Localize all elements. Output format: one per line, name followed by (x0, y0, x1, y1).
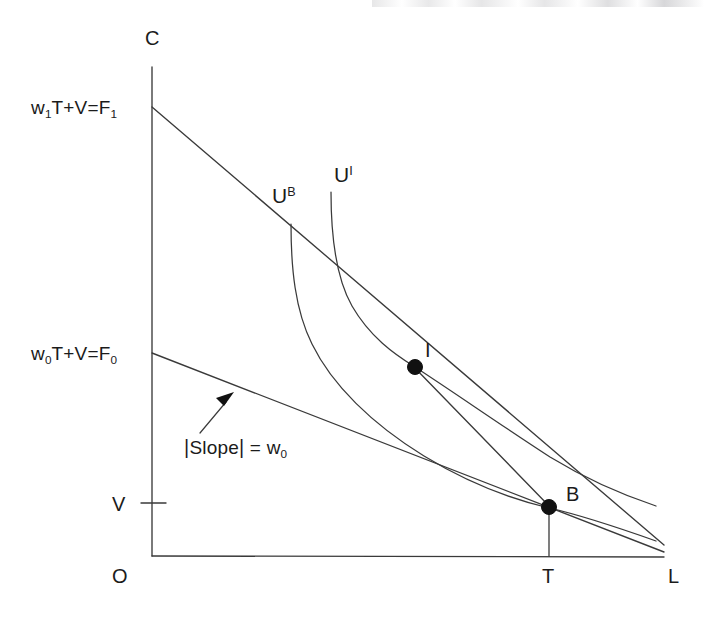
y-tick-label-v: V (112, 494, 125, 514)
f1-eq-sub2: 1 (111, 107, 118, 120)
f0-eq-sub1: 0 (45, 353, 52, 366)
ub-superscript: B (287, 185, 295, 199)
f1-eq-middle: T+V=F (51, 97, 110, 118)
slope-annotation-arrow-head (216, 392, 234, 406)
diagram-canvas (0, 0, 718, 622)
curve-label-ub: UB (272, 185, 296, 206)
y-axis-label: C (145, 28, 159, 48)
slope-annotation-leader-line (200, 402, 226, 433)
ui-base: U (334, 163, 349, 186)
point-marker-i (408, 360, 423, 375)
indifference-curve-ui (331, 192, 656, 506)
ub-base: U (272, 184, 287, 207)
f0-eq-middle: T+V=F (51, 343, 110, 364)
slope-equals: = w (244, 437, 280, 458)
slope-annotation-label: |Slope| = w0 (184, 438, 287, 458)
f0-eq-sub2: 0 (111, 353, 118, 366)
slope-bar-open: | (184, 438, 189, 459)
budget-line-f1-equation-label: w1T+V=F1 (31, 98, 117, 117)
budget-line-f0-equation-label: w0T+V=F0 (31, 344, 117, 363)
x-axis (152, 556, 664, 557)
figure-container: C L O V T w1T+V=F1 w0T+V=F0 |Slope| = w0… (0, 0, 718, 622)
x-tick-label-t: T (542, 566, 554, 586)
point-label-b: B (566, 484, 579, 504)
point-label-i: I (425, 340, 431, 360)
budget-line-f1 (152, 107, 664, 545)
curve-label-ui: UI (334, 164, 353, 185)
slope-bar-close: | (239, 438, 244, 459)
point-marker-b (542, 500, 557, 515)
f1-eq-sub1: 1 (45, 107, 52, 120)
ui-superscript: I (349, 164, 353, 178)
f0-eq-prefix: w (31, 343, 45, 364)
f1-eq-prefix: w (31, 97, 45, 118)
origin-label: O (112, 566, 128, 586)
slope-text: Slope (189, 437, 239, 458)
slope-subscript: 0 (281, 447, 288, 460)
x-axis-label: L (668, 566, 679, 586)
